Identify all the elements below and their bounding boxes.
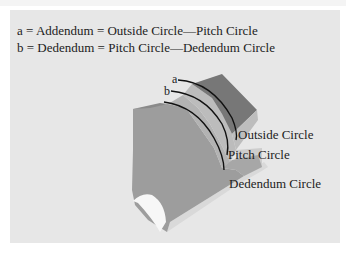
label-pitch-circle: Pitch Circle	[228, 147, 290, 163]
label-b: b	[164, 84, 170, 99]
label-a: a	[172, 72, 177, 87]
label-outside-circle: Outside Circle	[238, 127, 313, 143]
label-dedendum-circle: Dedendum Circle	[229, 176, 321, 192]
